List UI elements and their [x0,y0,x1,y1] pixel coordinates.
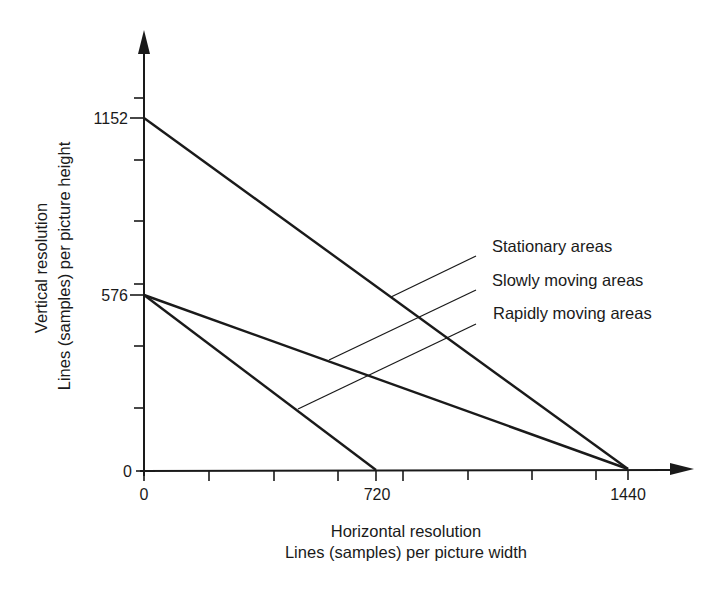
x-axis-title-line2: Lines (samples) per picture width [285,543,527,561]
leader-lines [298,256,476,409]
y-axis-arrow-icon [138,30,150,54]
x-axis-title: Horizontal resolution Lines (samples) pe… [285,522,527,561]
label-slowly-moving: Slowly moving areas [492,271,643,289]
data-lines [144,118,628,470]
x-axis: 0 720 1440 [140,463,694,503]
line-rapidly-moving [144,295,376,470]
line-stationary [144,118,628,469]
y-tick-label-576: 576 [101,287,128,304]
x-tick-label-0: 0 [140,486,149,503]
y-tick-label-0: 0 [123,463,132,480]
y-tick-label-1152: 1152 [94,110,129,127]
label-stationary: Stationary areas [492,237,612,255]
leader-slowly-moving [329,290,476,360]
x-tick-label-720: 720 [364,486,391,503]
y-axis-title-line1: Vertical resolution [32,203,50,333]
leader-stationary [391,256,476,297]
x-axis-title-line1: Horizontal resolution [331,522,481,540]
leader-rapidly-moving [298,324,476,409]
annotations: Stationary areas Slowly moving areas Rap… [492,237,652,322]
x-axis-arrow-icon [670,463,694,475]
label-rapidly-moving: Rapidly moving areas [493,304,652,322]
y-axis-title-line2: Lines (samples) per picture height [55,141,73,390]
y-axis-title: Vertical resolution Lines (samples) per … [32,141,73,390]
x-tick-label-1440: 1440 [610,486,646,503]
resolution-diagram: 1152 576 0 0 720 1440 Stationary areas S… [0,0,723,593]
y-axis: 1152 576 0 [94,30,150,480]
